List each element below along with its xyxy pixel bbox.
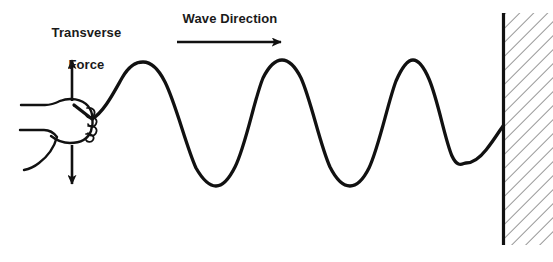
transverse-wave-diagram: Transverse Force Wave Direction (0, 0, 553, 262)
wave-curve (92, 60, 503, 186)
wave-direction-label: Wave Direction (160, 11, 300, 27)
forearm-upper-edge (21, 101, 60, 105)
wall-group (504, 13, 553, 245)
wall-hatching (504, 13, 553, 245)
rope-wave (92, 60, 503, 186)
transverse-force-line-2: Force (68, 57, 104, 72)
transverse-force-line-1: Transverse (52, 25, 122, 40)
hand-gripping-rope (20, 99, 97, 170)
transverse-force-label: Transverse Force (14, 9, 144, 89)
